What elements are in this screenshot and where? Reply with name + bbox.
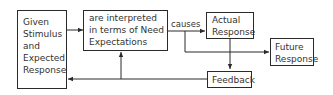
edge-label-causes: causes <box>171 19 200 29</box>
node-feedback-line: Feedback <box>212 74 251 86</box>
node-actual-response: Actual Response <box>206 12 254 39</box>
node-stimulus: Given Stimulus and Expected Response <box>17 10 67 89</box>
node-future-response: Future Response <box>270 38 314 66</box>
node-interpreted-line: in terms of Need <box>89 24 167 36</box>
node-feedback: Feedback <box>207 71 252 88</box>
node-stimulus-line: and <box>23 40 66 52</box>
node-stimulus-line: Stimulus <box>23 28 66 40</box>
node-interpreted: are interpreted in terms of Need Expecta… <box>83 10 168 51</box>
node-stimulus-line: Given <box>23 16 66 28</box>
node-actual-line: Response <box>212 26 253 38</box>
node-interpreted-line: are interpreted <box>89 12 167 24</box>
node-interpreted-line: Expectations <box>89 36 167 48</box>
node-stimulus-line: Expected <box>23 52 66 64</box>
node-future-line: Future <box>275 41 313 53</box>
node-future-line: Response <box>275 53 313 65</box>
node-actual-line: Actual <box>212 14 253 26</box>
node-stimulus-line: Response <box>23 64 66 76</box>
